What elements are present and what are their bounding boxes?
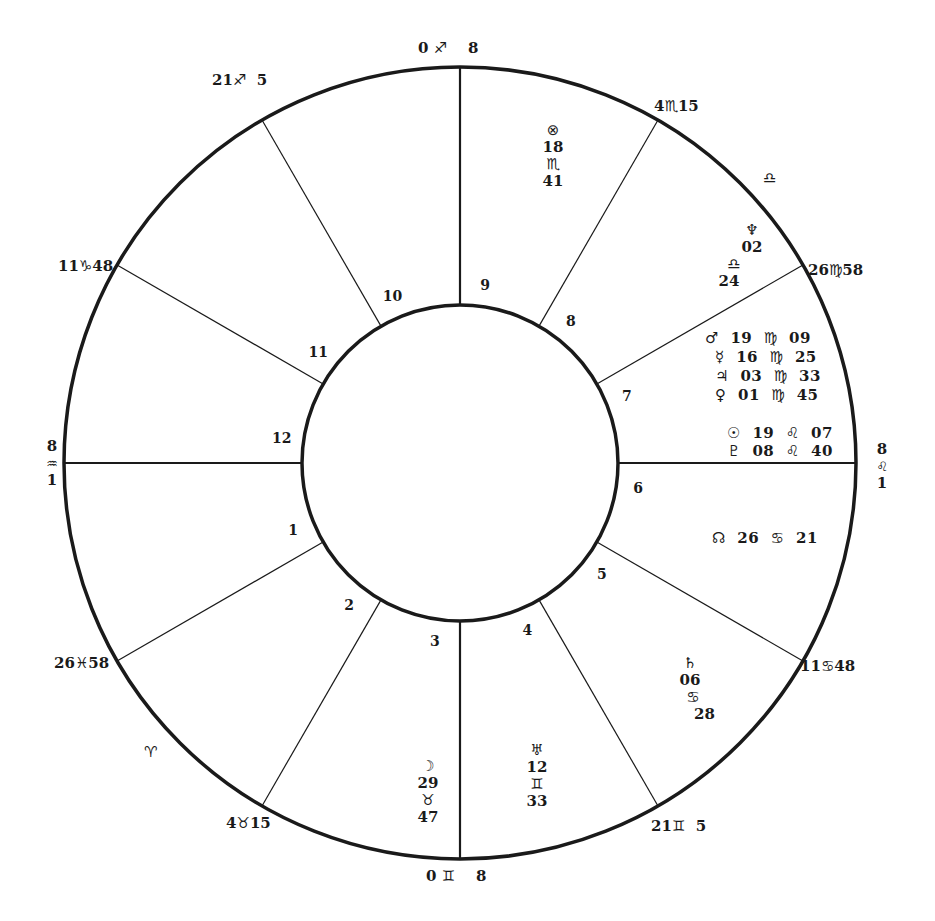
saturn-icon: ♄ — [678, 655, 702, 672]
descendant-label: 8 ♌ 1 — [872, 441, 892, 492]
mars-icon: ♂ — [705, 329, 719, 347]
neptune-icon: ♆ — [740, 222, 764, 239]
mercury-icon: ☿ — [715, 348, 725, 366]
planet-part-of-fortune: ⊗18♏41 — [541, 122, 565, 190]
house-number-6: 6 — [633, 480, 643, 496]
planet-degree: 19 — [719, 329, 764, 347]
planet-degree: 03 — [729, 367, 774, 385]
planet-degree: 29 — [416, 775, 440, 792]
planet-jupiter: ♃ 03 ♍ 33 — [715, 368, 821, 385]
cusp-label-c11: 21♐ 5 — [212, 72, 267, 89]
cusp-label-mc: 0 ♐ 8 — [418, 40, 478, 57]
zodiac-sign-icon: ♏ — [541, 156, 565, 173]
planet-minute: 24 — [694, 273, 764, 290]
cusp-label-ic: 0 ♊ 8 — [426, 868, 486, 885]
planet-uranus: ♅12♊33 — [525, 742, 549, 810]
planet-minute: 41 — [541, 173, 565, 190]
cusp-line — [117, 542, 323, 661]
house-number-7: 7 — [622, 388, 632, 404]
zodiac-sign-icon: ♐ — [434, 39, 447, 57]
cusp-line — [262, 600, 381, 806]
chart-wheel — [0, 0, 935, 921]
zodiac-sign-icon: ♐ — [233, 71, 246, 89]
zodiac-sign-icon: ♑ — [79, 257, 92, 275]
house-number-2: 2 — [344, 597, 354, 613]
planet-minute: 07 — [800, 424, 833, 442]
cusp-line — [597, 542, 803, 661]
planet-north-node: ☊ 26 ♋ 21 — [712, 530, 818, 547]
zodiac-sign-icon: ♌ — [786, 442, 800, 460]
planet-minute: 33 — [788, 367, 821, 385]
planet-degree: 16 — [725, 348, 770, 366]
planet-moon: ☽29♉47 — [416, 758, 440, 826]
planet-minute: 28 — [694, 706, 702, 723]
zodiac-sign-icon: ♎ — [704, 256, 764, 273]
planet-degree: 02 — [740, 239, 764, 256]
cusp-label-c12: 11♑48 — [58, 258, 113, 275]
north-node-icon: ☊ — [712, 529, 726, 547]
sun-icon: ☉ — [727, 424, 741, 442]
cusp-label-c9: 26♍58 — [808, 262, 863, 279]
zodiac-sign-icon: ♉ — [416, 792, 440, 809]
moon-icon: ☽ — [416, 758, 440, 775]
leo-icon: ♌ — [872, 458, 892, 475]
planet-minute: 47 — [416, 809, 440, 826]
zodiac-sign-icon: ♍ — [774, 367, 788, 385]
planet-minute: 25 — [783, 348, 816, 366]
cusp-line — [539, 600, 658, 806]
ascendant-label: 8 ♒ 1 — [42, 438, 62, 489]
house-number-4: 4 — [523, 622, 533, 638]
uranus-icon: ♅ — [525, 742, 549, 759]
planet-pluto: ♇ 08 ♌ 40 — [727, 443, 833, 460]
planet-sun: ☉ 19 ♌ 07 — [727, 425, 833, 442]
asc-degree: 8 — [42, 438, 62, 455]
planet-minute: 40 — [800, 442, 833, 460]
planet-degree: 19 — [741, 424, 786, 442]
house-number-8: 8 — [566, 313, 576, 329]
cusp-line — [262, 120, 381, 326]
planet-minute: 09 — [778, 329, 811, 347]
planet-degree: 26 — [726, 529, 771, 547]
cusp-label-c4r: 21♊ 5 — [651, 818, 706, 835]
zodiac-sign-icon: ♋ — [821, 657, 834, 675]
planet-degree: 18 — [541, 139, 565, 156]
jupiter-icon: ♃ — [715, 367, 729, 385]
pluto-icon: ♇ — [727, 442, 741, 460]
intercepted-sign-icon: ♎ — [763, 170, 776, 187]
zodiac-sign-icon: ♏ — [664, 97, 677, 115]
planet-degree: 06 — [678, 672, 702, 689]
house-number-9: 9 — [480, 277, 490, 293]
dsc-minute: 1 — [872, 475, 892, 492]
asc-minute: 1 — [42, 472, 62, 489]
zodiac-sign-icon: ♓ — [75, 654, 88, 672]
zodiac-sign-icon: ♋ — [771, 529, 785, 547]
zodiac-sign-icon: ♍ — [829, 261, 842, 279]
inner-circle — [302, 305, 618, 621]
venus-icon: ♀ — [715, 386, 727, 404]
cusp-label-c3: 4♉15 — [226, 815, 271, 832]
planet-minute: 33 — [525, 793, 549, 810]
planet-neptune: ♆02♎24 — [740, 222, 764, 290]
zodiac-sign-icon: ♋ — [684, 689, 702, 706]
zodiac-sign-icon: ♊ — [672, 817, 685, 835]
intercepted-sign-icon: ♈ — [144, 744, 157, 761]
dsc-degree: 8 — [872, 441, 892, 458]
aquarius-icon: ♒ — [42, 455, 62, 472]
house-number-12: 12 — [272, 430, 291, 446]
part-of-fortune-icon: ⊗ — [541, 122, 565, 139]
zodiac-sign-icon: ♊ — [442, 867, 455, 885]
zodiac-sign-icon: ♍ — [771, 386, 785, 404]
planet-mars: ♂ 19 ♍ 09 — [705, 330, 811, 347]
zodiac-sign-icon: ♊ — [525, 776, 549, 793]
cusp-label-c5: 11♋48 — [800, 658, 855, 675]
zodiac-sign-icon: ♌ — [786, 424, 800, 442]
planet-mercury: ☿ 16 ♍ 25 — [715, 349, 817, 366]
zodiac-sign-icon: ♍ — [764, 329, 778, 347]
planet-degree: 01 — [727, 386, 772, 404]
cusp-label-c2: 26♓58 — [54, 655, 109, 672]
planet-minute: 21 — [785, 529, 818, 547]
planet-saturn: ♄06♋28 — [678, 655, 702, 723]
house-number-11: 11 — [308, 344, 327, 360]
house-number-10: 10 — [383, 288, 402, 304]
planet-degree: 08 — [741, 442, 786, 460]
